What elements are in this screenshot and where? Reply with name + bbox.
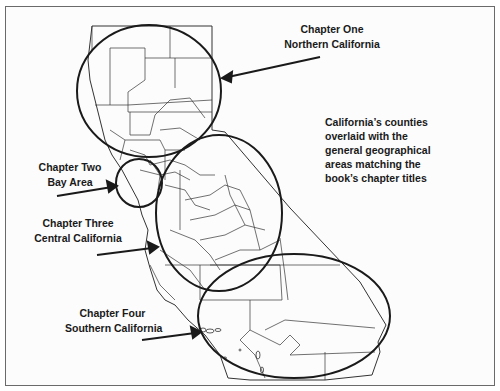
caption-line: overlaid with the [325, 129, 431, 143]
chapter-three-arrow [97, 248, 152, 255]
chapter-four-title: Chapter Four [65, 306, 160, 321]
chapter-one-region: Northern California [277, 37, 387, 52]
southern-california-circle [198, 254, 390, 378]
caption-line: general geographical [325, 143, 431, 157]
caption-line: California’s counties [325, 115, 431, 129]
chapter-four-region: Southern California [65, 321, 160, 336]
chapter-three-region: Central California [33, 231, 123, 246]
chapter-four-label: Chapter Four Southern California [65, 306, 160, 336]
chapter-one-arrow [228, 57, 320, 77]
chapter-three-title: Chapter Three [33, 216, 123, 231]
northern-california-circle [77, 25, 221, 157]
caption-line: book’s chapter titles [325, 171, 431, 185]
chapter-three-label: Chapter Three Central California [33, 216, 123, 246]
bay-area-circle [116, 159, 162, 207]
caption-line: areas matching the [325, 157, 431, 171]
map-caption: California’s counties overlaid with the … [325, 115, 431, 185]
chapter-two-region: Bay Area [30, 175, 110, 190]
chapter-two-title: Chapter Two [30, 160, 110, 175]
chapter-two-label: Chapter Two Bay Area [30, 160, 110, 190]
channel-islands [200, 328, 264, 373]
chapter-one-title: Chapter One [277, 22, 387, 37]
chapter-one-label: Chapter One Northern California [277, 22, 387, 52]
